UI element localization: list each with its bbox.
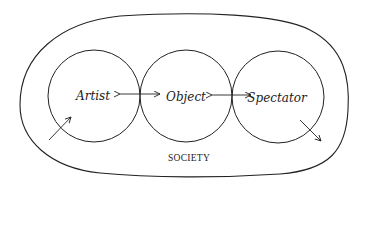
society-to-artist-arrow	[49, 117, 71, 140]
society-label: SOCIETY	[168, 153, 210, 163]
spectator-label: Spectator	[247, 91, 306, 105]
spectator-to-society-arrow	[300, 120, 321, 141]
artist-label: Artist	[76, 89, 110, 103]
object-label: Object	[166, 90, 206, 104]
